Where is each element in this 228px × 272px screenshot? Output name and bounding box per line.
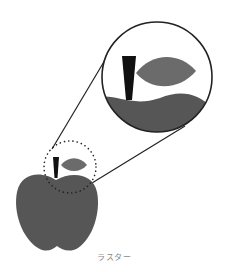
caption-label: ラスター (0, 251, 228, 262)
leaf-icon (61, 158, 87, 171)
apple-icon (16, 157, 98, 251)
raster-illustration (0, 0, 228, 272)
stem-icon (53, 157, 59, 178)
magnified-apple (95, 94, 215, 140)
magnifier (95, 22, 215, 140)
connector-line-bottom (92, 126, 185, 183)
connector-line-top (52, 60, 105, 149)
